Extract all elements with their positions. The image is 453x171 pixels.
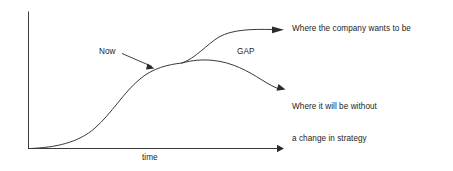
lower-branch-curve (182, 60, 278, 89)
base-s-curve (30, 63, 182, 149)
strategy-gap-diagram: Now GAP time Where the company wants to … (0, 0, 453, 171)
x-axis-label: time (142, 153, 158, 164)
upper-branch-curve (182, 29, 272, 63)
lower-endpoint-label-line2: a change in strategy (292, 134, 377, 145)
lower-endpoint-label: Where it will be without a change in str… (292, 81, 377, 165)
x-axis-arrow-icon (277, 145, 284, 152)
now-annotation-label: Now (99, 47, 116, 58)
upper-branch-arrow-icon (272, 26, 284, 33)
lower-branch-arrow-icon (277, 84, 286, 91)
upper-endpoint-label: Where the company wants to be (292, 24, 411, 35)
gap-annotation-label: GAP (237, 47, 254, 58)
lower-endpoint-label-line1: Where it will be without (292, 102, 377, 113)
